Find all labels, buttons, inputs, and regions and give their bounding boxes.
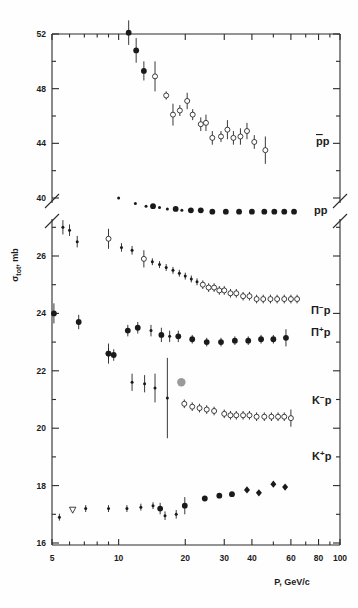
data-point xyxy=(231,135,236,140)
x-tick-label: 40 xyxy=(247,553,257,563)
data-point xyxy=(166,207,169,210)
data-point xyxy=(276,414,281,419)
plot-frame xyxy=(45,34,347,545)
y-tick-label: 52 xyxy=(37,29,47,39)
series-label-p: Π+p xyxy=(311,325,331,338)
series-labels-group: ppppΠ−pΠ+pK−pK+p xyxy=(311,135,332,462)
data-point xyxy=(217,288,222,293)
data-point xyxy=(190,404,195,409)
data-point xyxy=(58,516,61,519)
data-point xyxy=(204,407,209,412)
data-point xyxy=(166,397,169,400)
y-axis-ticks xyxy=(52,34,340,543)
data-point xyxy=(154,387,157,390)
data-point xyxy=(236,209,242,215)
data-point-highlight xyxy=(177,378,185,386)
data-point xyxy=(177,108,182,113)
data-point xyxy=(173,206,179,212)
data-point xyxy=(141,256,146,261)
series-p xyxy=(51,303,289,360)
data-point xyxy=(247,294,252,299)
data-point xyxy=(256,489,262,496)
x-tick-label: 100 xyxy=(333,553,347,563)
data-point xyxy=(141,68,147,74)
data-point xyxy=(150,203,156,209)
data-point xyxy=(282,483,288,490)
data-point xyxy=(170,112,175,117)
data-point xyxy=(182,503,188,509)
series-Kp xyxy=(58,481,288,521)
data-point xyxy=(165,266,168,269)
data-point xyxy=(241,413,246,418)
series-label-Kp: K−p xyxy=(312,393,332,406)
data-point xyxy=(149,329,152,332)
data-point xyxy=(51,311,57,317)
y-tick-label: 16 xyxy=(37,538,47,548)
data-point xyxy=(270,336,276,342)
data-point xyxy=(291,209,297,215)
data-point xyxy=(185,98,190,103)
data-point xyxy=(245,338,251,344)
data-point xyxy=(210,135,215,140)
data-point xyxy=(252,139,257,144)
data-point xyxy=(281,209,287,215)
data-point xyxy=(76,319,82,325)
data-point xyxy=(212,285,217,290)
data-point xyxy=(216,493,222,499)
x-tick-label: 30 xyxy=(220,553,230,563)
data-point xyxy=(180,209,183,212)
x-axis-tick-labels: 5102030406080100 xyxy=(50,553,348,563)
data-point xyxy=(131,249,134,252)
data-point xyxy=(229,491,235,497)
series-Kp xyxy=(106,344,294,439)
data-point xyxy=(258,336,264,342)
data-point xyxy=(271,209,277,215)
data-point xyxy=(203,120,208,125)
data-point xyxy=(133,48,139,54)
data-point xyxy=(190,112,195,117)
y-tick-label: 22 xyxy=(37,366,47,376)
data-point xyxy=(206,285,211,290)
data-point xyxy=(282,297,287,302)
data-point xyxy=(153,74,158,79)
data-point xyxy=(232,338,238,344)
data-point xyxy=(190,277,193,280)
data-point xyxy=(288,297,293,302)
data-point xyxy=(228,291,233,296)
x-axis-ticks xyxy=(52,34,340,545)
data-point xyxy=(143,382,146,385)
data-point xyxy=(61,226,64,229)
data-point xyxy=(222,288,227,293)
data-point xyxy=(268,297,273,302)
data-point xyxy=(164,514,167,517)
data-point xyxy=(175,333,181,339)
data-point xyxy=(134,202,137,205)
data-point xyxy=(157,506,163,512)
data-point xyxy=(197,406,202,411)
data-point xyxy=(139,506,142,509)
y-tick-label: 26 xyxy=(37,251,47,261)
data-point xyxy=(218,339,224,345)
data-point xyxy=(283,335,289,341)
data-point xyxy=(261,209,267,215)
data-point xyxy=(131,381,134,384)
data-point xyxy=(145,205,148,208)
x-tick-label: 10 xyxy=(114,553,124,563)
data-point xyxy=(249,209,255,215)
data-point xyxy=(262,414,267,419)
y-tick-label: 48 xyxy=(37,84,47,94)
y-axis-title: σtot, mb xyxy=(10,248,22,282)
x-tick-label: 20 xyxy=(181,553,191,563)
data-point xyxy=(120,246,123,249)
data-point xyxy=(69,507,75,513)
data-point xyxy=(234,413,239,418)
data-point xyxy=(107,507,110,510)
data-point xyxy=(282,414,287,419)
data-point xyxy=(158,332,164,338)
data-point xyxy=(184,275,187,278)
data-point xyxy=(106,236,111,241)
series-label-p: Π−p xyxy=(311,303,331,316)
series-label-Kp: K+p xyxy=(312,449,332,462)
data-point xyxy=(106,351,112,357)
data-point xyxy=(234,291,239,296)
